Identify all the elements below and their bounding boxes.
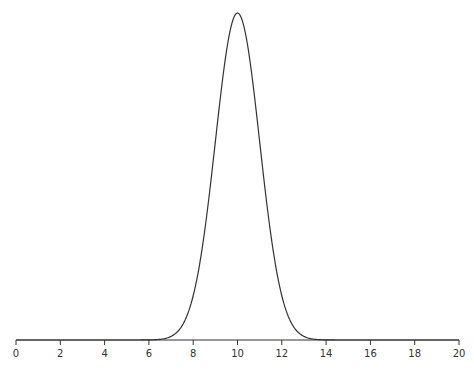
x-tick-label: 6 xyxy=(146,348,152,359)
x-tick-label: 4 xyxy=(101,348,107,359)
chart: 02468101214161820 xyxy=(0,0,474,371)
x-tick-label: 0 xyxy=(13,348,19,359)
x-tick-label: 10 xyxy=(231,348,244,359)
x-tick-label: 20 xyxy=(453,348,466,359)
x-axis-ticks: 02468101214161820 xyxy=(13,340,466,359)
x-tick-label: 18 xyxy=(408,348,421,359)
x-tick-label: 2 xyxy=(57,348,63,359)
x-tick-label: 8 xyxy=(190,348,196,359)
x-tick-label: 16 xyxy=(364,348,377,359)
x-tick-label: 14 xyxy=(320,348,333,359)
x-tick-label: 12 xyxy=(275,348,288,359)
normal-curve xyxy=(16,13,459,340)
